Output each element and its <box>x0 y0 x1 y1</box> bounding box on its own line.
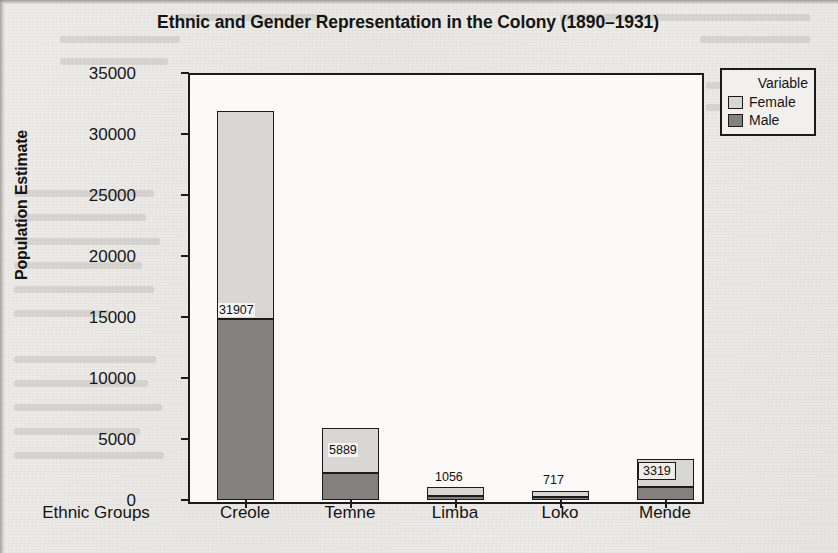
legend-item-male[interactable]: Male <box>728 112 808 128</box>
x-tick-label-temne: Temne <box>295 503 405 523</box>
x-tick-label-creole: Creole <box>190 503 300 523</box>
x-tick-label-loko: Loko <box>505 503 615 523</box>
bar-value-label: 3319 <box>638 462 676 480</box>
legend-title: Variable <box>728 75 808 91</box>
y-tick-label: 5000 <box>16 430 136 450</box>
bar-value-label: 31907 <box>218 303 255 317</box>
x-axis-title: Ethnic Groups <box>16 503 176 523</box>
bar-temne[interactable] <box>322 428 379 500</box>
legend-swatch-male-icon <box>728 114 743 127</box>
y-tick-label: 30000 <box>16 125 136 145</box>
bar-segment-female[interactable] <box>217 111 274 319</box>
legend-label-female: Female <box>749 94 796 110</box>
bar-segment-male[interactable] <box>322 473 379 500</box>
bar-value-label: 717 <box>542 473 565 487</box>
bar-limba[interactable] <box>427 487 484 500</box>
legend-label-male: Male <box>749 112 779 128</box>
x-tick-label-mende: Mende <box>610 503 720 523</box>
bar-segment-female[interactable] <box>427 487 484 496</box>
x-tick-label-limba: Limba <box>400 503 510 523</box>
y-tick-label: 35000 <box>16 64 136 84</box>
bar-segment-male[interactable] <box>637 487 694 500</box>
legend: Variable Female Male <box>720 68 816 136</box>
bar-segment-male[interactable] <box>217 319 274 500</box>
y-tick-label: 15000 <box>16 308 136 328</box>
bar-value-label: 5889 <box>328 443 358 457</box>
legend-swatch-female-icon <box>728 96 743 109</box>
bar-value-label: 1056 <box>434 470 464 484</box>
legend-item-female[interactable]: Female <box>728 94 808 110</box>
stacked-bar-chart: Ethnic and Gender Representation in the … <box>8 6 830 546</box>
y-tick-label: 25000 <box>16 186 136 206</box>
bar-loko[interactable] <box>532 491 589 500</box>
y-tick-label: 20000 <box>16 247 136 267</box>
y-tick-label: 10000 <box>16 369 136 389</box>
chart-title: Ethnic and Gender Representation in the … <box>128 12 688 33</box>
